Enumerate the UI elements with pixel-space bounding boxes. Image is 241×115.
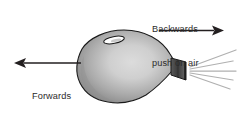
backwards-label: Backwards push on air — [152, 1, 199, 92]
backwards-label-line-1: Backwards — [152, 24, 199, 35]
forwards-label: Forwards push on balloon — [32, 68, 71, 115]
forwards-arrow — [14, 58, 81, 68]
backwards-label-line-2: push on air — [152, 58, 199, 69]
diagram-canvas: Backwards push on air Forwards push on b… — [0, 0, 241, 115]
forwards-label-line-1: Forwards — [32, 91, 71, 102]
